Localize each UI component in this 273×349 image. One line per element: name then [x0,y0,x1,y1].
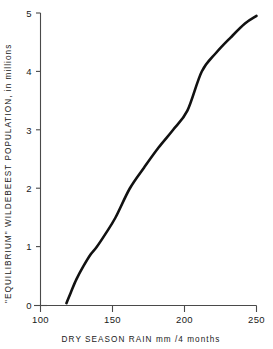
x-tick-label-150: 150 [104,314,121,325]
x-axis: 100 150 200 250 DRY SEASON RAIN mm /4 mo… [32,306,265,345]
y-tick-label-4: 4 [26,66,32,77]
x-axis-title: DRY SEASON RAIN mm /4 months [62,335,221,344]
y-tick-label-5: 5 [26,8,32,19]
x-tick-label-200: 200 [176,314,193,325]
y-tick-label-1: 1 [26,241,32,252]
y-tick-label-0: 0 [26,300,32,311]
y-axis-title: "EQUILIBRIUM" WILDEBEEST POPULATION, in … [4,44,13,303]
chart-figure: 5 4 3 2 1 0 "EQUILIBRIUM" WILDEBEEST POP… [0,0,273,349]
population-curve [66,16,256,303]
y-tick-label-3: 3 [26,125,32,136]
y-tick-label-2: 2 [26,183,32,194]
y-axis: 5 4 3 2 1 0 "EQUILIBRIUM" WILDEBEEST POP… [4,8,47,312]
x-tick-label-100: 100 [32,314,49,325]
x-tick-label-250: 250 [248,314,265,325]
wildebeest-population-vs-rainfall-chart: 5 4 3 2 1 0 "EQUILIBRIUM" WILDEBEEST POP… [0,0,273,349]
